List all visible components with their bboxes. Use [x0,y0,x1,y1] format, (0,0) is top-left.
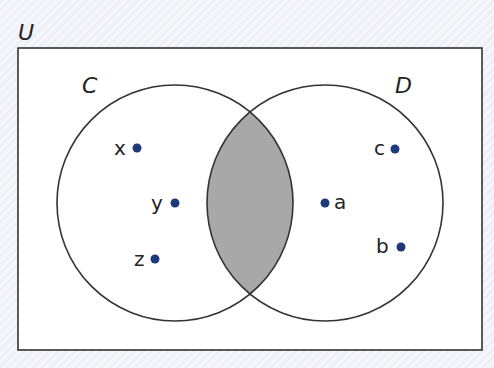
dot-icon [171,199,180,208]
dot-icon [397,243,406,252]
dot-icon [391,145,400,154]
point-label: z [134,247,145,271]
venn-diagram: U C D x y z c a b [0,0,494,368]
point-label: c [374,136,385,160]
dot-icon [151,255,160,264]
universe-label: U [18,20,34,45]
point-label: y [151,191,163,215]
point-label: x [114,136,126,160]
set-c-label: C [82,73,98,98]
point-label: b [376,234,389,258]
point-label: a [334,190,346,214]
dot-icon [321,199,330,208]
set-d-label: D [395,73,412,98]
dot-icon [133,144,142,153]
